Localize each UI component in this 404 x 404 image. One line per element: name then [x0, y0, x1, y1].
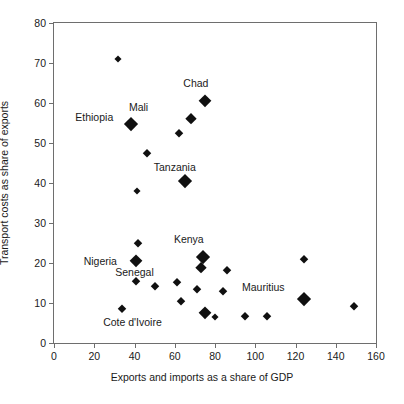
scatter-chart: 01020304050607080020406080100120140160Et… — [0, 0, 404, 404]
x-axis-tick — [54, 343, 55, 348]
data-point — [118, 305, 127, 314]
data-point — [263, 312, 271, 320]
data-point — [193, 285, 201, 293]
data-point — [195, 262, 207, 274]
data-point — [124, 117, 138, 131]
data-point — [134, 239, 142, 247]
data-point — [196, 250, 210, 264]
x-axis-tick-label: 160 — [367, 350, 385, 362]
y-axis-tick-label: 60 — [34, 97, 46, 109]
y-axis-tick-label: 20 — [34, 257, 46, 269]
x-axis-tick — [94, 343, 95, 348]
data-point — [223, 266, 231, 274]
x-axis-tick-label: 80 — [209, 350, 221, 362]
data-point — [212, 314, 219, 321]
x-axis-tick-label: 120 — [287, 350, 305, 362]
y-axis-tick — [49, 103, 54, 104]
y-axis-tick — [49, 263, 54, 264]
data-point — [132, 277, 140, 285]
point-annotation: Mali — [129, 101, 148, 113]
point-annotation: Ethiopia — [75, 111, 113, 123]
y-axis-tick — [49, 63, 54, 64]
y-axis-tick-label: 50 — [34, 137, 46, 149]
x-axis-tick-label: 40 — [129, 350, 141, 362]
point-annotation: Tanzania — [154, 161, 196, 173]
y-axis-tick-label: 0 — [40, 337, 46, 349]
point-annotation: Mauritius — [242, 281, 285, 293]
data-point — [297, 292, 311, 306]
y-axis-tick-label: 40 — [34, 177, 46, 189]
data-point — [185, 113, 197, 125]
x-axis-tick — [175, 343, 176, 348]
y-axis-tick-label: 30 — [34, 217, 46, 229]
x-axis-tick — [135, 343, 136, 348]
point-annotation: Chad — [183, 77, 208, 89]
plot-area: 01020304050607080020406080100120140160Et… — [53, 22, 377, 344]
data-point — [143, 149, 151, 157]
x-axis-tick-label: 20 — [88, 350, 100, 362]
data-point — [173, 278, 181, 286]
data-point — [177, 297, 185, 305]
x-axis-tick — [296, 343, 297, 348]
x-axis-tick-label: 60 — [169, 350, 181, 362]
y-axis-tick-label: 70 — [34, 57, 46, 69]
y-axis-tick — [49, 23, 54, 24]
y-axis-tick-label: 80 — [34, 17, 46, 29]
data-point — [151, 282, 159, 290]
x-axis-tick-label: 140 — [327, 350, 345, 362]
point-annotation: Nigeria — [84, 255, 117, 267]
data-point — [219, 287, 227, 295]
x-axis-tick — [215, 343, 216, 348]
data-point — [198, 307, 211, 320]
data-point — [350, 302, 358, 310]
data-point — [300, 255, 308, 263]
data-point — [178, 174, 192, 188]
x-axis-tick-label: 0 — [51, 350, 57, 362]
point-annotation: Senegal — [115, 266, 154, 278]
data-point — [175, 129, 183, 137]
point-annotation: Cote d'Ivoire — [103, 316, 162, 328]
y-axis-tick — [49, 143, 54, 144]
y-axis-tick-label: 10 — [34, 297, 46, 309]
data-point — [133, 188, 140, 195]
x-axis-tick — [255, 343, 256, 348]
y-axis-tick — [49, 223, 54, 224]
y-axis-tick — [49, 183, 54, 184]
x-axis-tick — [336, 343, 337, 348]
y-axis-title: Transport costs as share of exports — [0, 101, 10, 265]
x-axis-tick-label: 100 — [246, 350, 264, 362]
point-annotation: Kenya — [174, 233, 204, 245]
x-axis-title: Exports and imports as a share of GDP — [0, 371, 404, 383]
data-point — [115, 56, 122, 63]
y-axis-tick — [49, 303, 54, 304]
data-point — [241, 312, 249, 320]
x-axis-tick — [376, 343, 377, 348]
data-point — [198, 95, 211, 108]
